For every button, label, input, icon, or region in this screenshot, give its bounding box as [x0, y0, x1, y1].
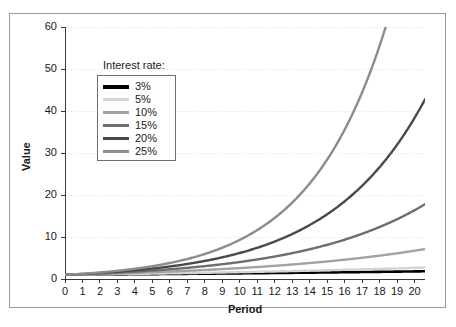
y-tick-label: 40: [23, 104, 57, 116]
legend-swatch-10pct: [103, 111, 129, 114]
legend-label: 5%: [135, 93, 151, 106]
x-tick-label: 20: [403, 285, 427, 297]
legend-label: 25%: [135, 145, 157, 158]
legend-item-20pct: 20%: [98, 132, 175, 145]
series-line-15-pct: [65, 204, 425, 275]
legend-swatch-15pct: [103, 124, 129, 127]
legend-item-25pct: 25%: [98, 145, 175, 158]
legend-label: 10%: [135, 106, 157, 119]
y-tick-label: 10: [23, 230, 57, 242]
legend-label: 15%: [135, 119, 157, 132]
legend-item-5pct: 5%: [98, 93, 175, 106]
legend-swatch-3pct: [103, 85, 129, 89]
legend-label: 20%: [135, 132, 157, 145]
y-tick-label: 60: [23, 20, 57, 32]
legend-item-10pct: 10%: [98, 106, 175, 119]
legend-item-15pct: 15%: [98, 119, 175, 132]
chart-legend: 3%5%10%15%20%25%: [97, 75, 176, 161]
y-tick-label: 50: [23, 62, 57, 74]
legend-label: 3%: [135, 80, 151, 93]
chart-frame: Value Period 0102030405060 0123456789101…: [9, 13, 446, 308]
legend-title: Interest rate:: [103, 59, 165, 71]
legend-swatch-25pct: [103, 150, 129, 153]
y-tick-label: 30: [23, 146, 57, 158]
chart-figure: Value Period 0102030405060 0123456789101…: [0, 0, 456, 327]
x-axis-title: Period: [65, 303, 425, 315]
legend-swatch-5pct: [103, 98, 129, 101]
y-tick-label: 0: [23, 272, 57, 284]
plot-canvas: [10, 14, 445, 307]
legend-item-3pct: 3%: [98, 80, 175, 93]
y-tick-label: 20: [23, 188, 57, 200]
legend-swatch-20pct: [103, 137, 129, 140]
